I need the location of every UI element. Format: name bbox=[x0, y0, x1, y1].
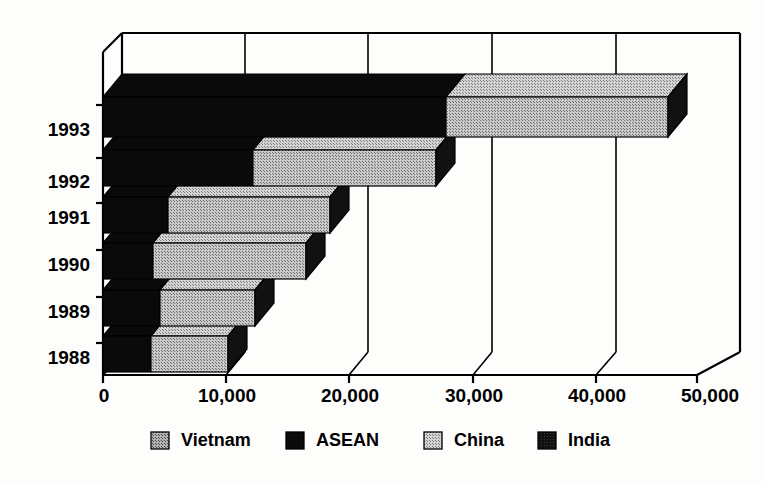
chart-page: 1993 1992 1991 1990 1989 1988 0 10,000 2… bbox=[0, 0, 766, 485]
y-tick-label: 1989 bbox=[48, 301, 90, 322]
y-tick-label: 1990 bbox=[48, 254, 90, 275]
chart-legend: Vietnam ASEAN China India bbox=[151, 430, 611, 450]
y-tick-label: 1988 bbox=[48, 347, 90, 368]
x-axis-labels: 0 10,000 20,000 30,000 40,000 50,000 bbox=[99, 385, 739, 406]
legend-swatch-china bbox=[424, 432, 442, 449]
legend-item-china: China bbox=[424, 430, 505, 450]
x-tick-label: 30,000 bbox=[445, 385, 503, 406]
y-tick-label: 1991 bbox=[48, 207, 91, 228]
y-tick-label: 1992 bbox=[48, 171, 90, 192]
y-axis-labels: 1993 1992 1991 1990 1989 1988 bbox=[48, 119, 91, 368]
legend-label-india: India bbox=[568, 430, 611, 450]
legend-swatch-asean bbox=[286, 432, 304, 449]
x-axis-ticks bbox=[103, 375, 697, 383]
x-tick-label: 40,000 bbox=[568, 385, 626, 406]
stacked-bar-chart-3d: 1993 1992 1991 1990 1989 1988 0 10,000 2… bbox=[0, 0, 766, 485]
legend-item-asean: ASEAN bbox=[286, 430, 379, 450]
legend-label-china: China bbox=[454, 430, 505, 450]
legend-swatch-india bbox=[538, 432, 556, 449]
y-tick-label: 1993 bbox=[48, 119, 90, 140]
legend-item-vietnam: Vietnam bbox=[151, 430, 251, 450]
legend-label-vietnam: Vietnam bbox=[181, 430, 251, 450]
x-tick-label: 50,000 bbox=[681, 385, 739, 406]
x-tick-label: 10,000 bbox=[198, 385, 256, 406]
x-tick-label: 20,000 bbox=[321, 385, 379, 406]
legend-swatch-vietnam bbox=[151, 432, 169, 449]
bar-group-1993 bbox=[103, 74, 687, 137]
legend-label-asean: ASEAN bbox=[316, 430, 379, 450]
legend-item-india: India bbox=[538, 430, 611, 450]
x-tick-label: 0 bbox=[99, 385, 110, 406]
